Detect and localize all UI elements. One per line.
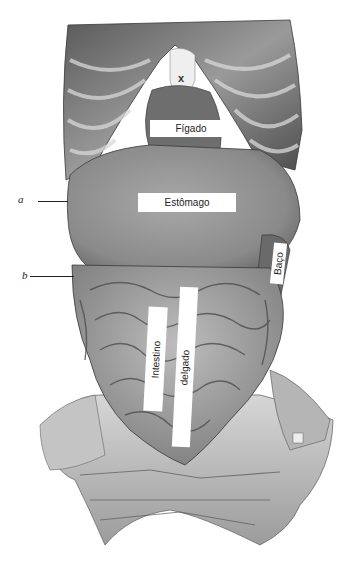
marker-b: b [22,269,28,281]
label-estomago: Estômago [138,193,236,212]
label-figado: Fígado [150,120,232,137]
marker-x: x [178,72,184,84]
leader-line-a [38,201,68,202]
anatomy-illustration [0,0,354,574]
marker-a: a [18,193,24,205]
flap-tab [293,433,303,443]
leader-line-b [30,276,74,277]
abdominal-wall-flap-left [40,395,105,470]
liver [145,85,221,150]
